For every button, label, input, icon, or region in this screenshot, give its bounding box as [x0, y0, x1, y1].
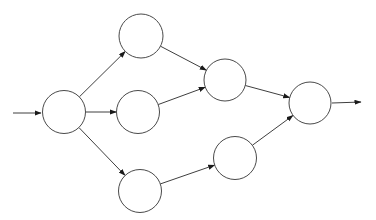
graph-edge-source-to-bottom — [79, 127, 125, 175]
graph-node-bottom — [119, 170, 162, 213]
graph-edge-merge-upper-to-sink — [245, 85, 289, 97]
graph-node-top — [119, 14, 163, 58]
graph-edge-top-to-merge-upper — [160, 46, 206, 70]
graph-edge-merge-lower-to-sink — [252, 115, 293, 145]
flow-graph — [0, 0, 376, 220]
exit-arrow — [332, 102, 361, 103]
graph-node-merge-upper — [204, 59, 246, 101]
graph-node-source — [43, 91, 86, 134]
graph-node-sink — [289, 82, 331, 124]
graph-edge-bottom-to-merge-lower — [160, 165, 214, 184]
diagram-canvas — [0, 0, 376, 220]
graph-node-middle — [117, 91, 160, 134]
graph-edge-source-to-top — [79, 51, 125, 96]
graph-edge-middle-to-merge-upper — [158, 87, 205, 104]
graph-node-merge-lower — [214, 137, 257, 180]
